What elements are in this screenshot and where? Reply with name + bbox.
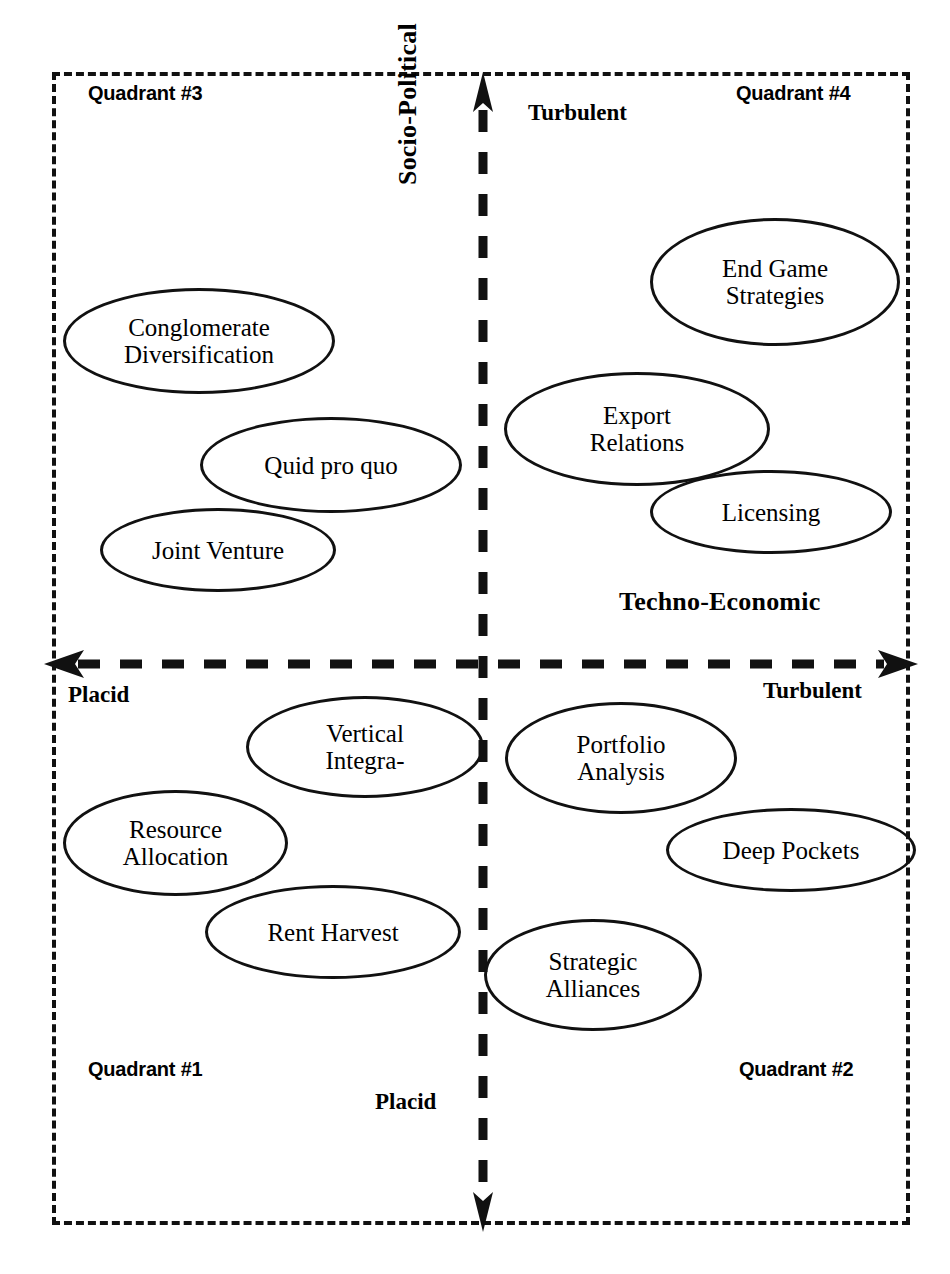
axis-title-socio-political: Socio-Political: [393, 23, 423, 185]
node-strategic-alliances[interactable]: Strategic Alliances: [484, 919, 702, 1031]
node-line-1: End Game: [716, 255, 834, 282]
node-resource-allocation[interactable]: Resource Allocation: [63, 790, 288, 896]
node-line-1: Conglomerate: [118, 314, 280, 341]
node-export-relations[interactable]: Export Relations: [504, 372, 770, 486]
arrow-up-icon: [473, 72, 493, 112]
node-line-2: Alliances: [540, 975, 646, 1002]
node-line-1: Portfolio: [571, 731, 672, 758]
techno-economic-axis: [44, 650, 918, 678]
node-quid-pro-quo[interactable]: Quid pro quo: [200, 417, 462, 513]
node-line-1: Licensing: [716, 499, 827, 526]
node-line-1: Strategic: [540, 948, 646, 975]
horizontal-axis-svg: [44, 650, 918, 678]
node-deep-pockets[interactable]: Deep Pockets: [666, 808, 916, 892]
node-licensing[interactable]: Licensing: [650, 470, 892, 554]
axis-end-label-placid-bottom: Placid: [375, 1089, 436, 1115]
axis-end-label-turbulent-right: Turbulent: [763, 678, 862, 704]
arrow-down-icon: [473, 1192, 493, 1232]
node-rent-harvest[interactable]: Rent Harvest: [205, 885, 461, 979]
node-line-1: Rent Harvest: [261, 919, 404, 946]
axis-end-label-turbulent-top: Turbulent: [528, 100, 627, 126]
node-line-2: Relations: [584, 429, 690, 456]
node-line-1: Deep Pockets: [717, 837, 866, 864]
node-line-1: Resource: [117, 816, 235, 843]
node-line-2: Diversification: [118, 341, 280, 368]
quadrant-label-2: Quadrant #2: [739, 1058, 854, 1081]
node-line-1: Export: [584, 402, 690, 429]
node-line-1: Joint Venture: [146, 537, 290, 564]
axis-title-techno-economic: Techno-Economic: [619, 587, 820, 617]
node-line-1: Quid pro quo: [258, 452, 403, 479]
node-vertical-integration[interactable]: Vertical Integra-: [246, 696, 484, 798]
node-line-2: Integra-: [319, 747, 410, 774]
diagram-canvas: Quadrant #3 Quadrant #4 Quadrant #1 Quad…: [0, 0, 950, 1274]
quadrant-label-4: Quadrant #4: [736, 82, 851, 105]
node-line-2: Allocation: [117, 843, 235, 870]
node-joint-venture[interactable]: Joint Venture: [100, 508, 336, 592]
node-line-1: Vertical: [319, 720, 410, 747]
node-line-2: Analysis: [571, 758, 672, 785]
node-line-2: Strategies: [716, 282, 834, 309]
node-conglomerate-diversification[interactable]: Conglomerate Diversification: [63, 288, 335, 394]
axis-end-label-placid-left: Placid: [68, 682, 129, 708]
node-portfolio-analysis[interactable]: Portfolio Analysis: [505, 702, 737, 814]
quadrant-label-3: Quadrant #3: [88, 82, 203, 105]
quadrant-label-1: Quadrant #1: [88, 1058, 203, 1081]
node-end-game-strategies[interactable]: End Game Strategies: [650, 218, 900, 346]
